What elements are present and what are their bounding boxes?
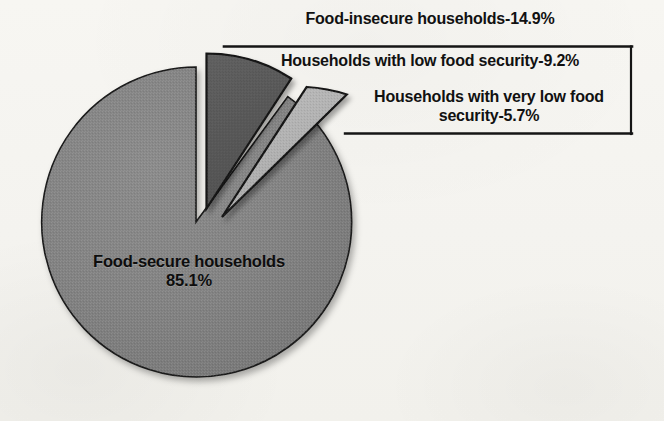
callout-label-very-low-line2: security-5.7% bbox=[350, 107, 628, 126]
callout-label-very-low-food-security: Households with very low food security-5… bbox=[350, 88, 628, 125]
callout-label-food-insecure-total: Food-insecure households-14.9% bbox=[228, 10, 632, 29]
callout-label-very-low-line1: Households with very low food bbox=[350, 88, 628, 107]
slice-label-food-secure-name: Food-secure households bbox=[64, 252, 314, 271]
slice-label-food-secure-percent: 85.1% bbox=[64, 271, 314, 290]
callout-label-low-food-security: Households with low food security-9.2% bbox=[232, 52, 628, 71]
slice-label-food-secure: Food-secure households 85.1% bbox=[64, 252, 314, 290]
